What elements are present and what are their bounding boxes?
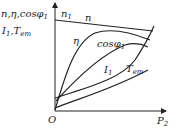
x-axis-label: P2 [156,115,169,128]
y-axis-label-line2: I1,Tem [1,25,31,38]
curve-n [55,20,153,31]
origin-label: O [48,114,56,125]
label-eta: η [73,35,79,46]
label-I1: I1 [103,64,112,77]
motor-characteristics-diagram: n,η,cosφ1 I1,Tem n1 n η cosφ1 I1 Tem O P… [0,0,178,136]
label-Tem: Tem [126,63,144,76]
label-n: n [85,12,91,23]
label-n1: n1 [61,8,72,21]
y-axis-label-line1: n,η,cosφ1 [1,8,48,21]
curve-I1 [55,26,154,98]
label-cosphi: cosφ1 [97,38,125,51]
